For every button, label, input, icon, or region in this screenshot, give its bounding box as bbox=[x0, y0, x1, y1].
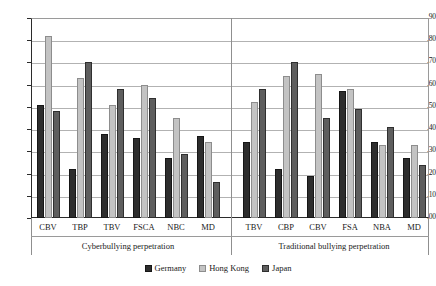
bar bbox=[85, 62, 92, 218]
bar bbox=[101, 134, 108, 218]
bar bbox=[197, 136, 204, 218]
bar bbox=[323, 118, 330, 218]
legend-item: Hong Kong bbox=[199, 263, 249, 273]
legend-swatch-icon bbox=[262, 265, 269, 272]
grouped-bar-chart: .90.80.70.60.50.40.30.20.10.00 CBVTBPTBV… bbox=[0, 0, 436, 286]
bar bbox=[419, 165, 426, 218]
bar bbox=[37, 105, 44, 218]
bar bbox=[213, 182, 220, 218]
bar-group bbox=[238, 19, 270, 218]
section-label: Cyberbullying perpetration bbox=[32, 240, 224, 252]
bar bbox=[149, 98, 156, 218]
bar bbox=[205, 142, 212, 218]
category-label: TBV bbox=[238, 221, 270, 233]
bar-group bbox=[270, 19, 302, 218]
bar-group bbox=[160, 19, 192, 218]
legend-swatch-icon bbox=[199, 265, 206, 272]
category-label: CBP bbox=[270, 221, 302, 233]
category-label: TBP bbox=[64, 221, 96, 233]
bar-group bbox=[302, 19, 334, 218]
category-label: CBV bbox=[32, 221, 64, 233]
bar bbox=[173, 118, 180, 218]
bar bbox=[355, 109, 362, 218]
legend-item: Germany bbox=[145, 263, 187, 273]
bar bbox=[283, 76, 290, 218]
bar bbox=[45, 36, 52, 218]
bar bbox=[403, 158, 410, 218]
bar bbox=[411, 145, 418, 218]
bar bbox=[165, 158, 172, 218]
bar bbox=[53, 111, 60, 218]
bar bbox=[77, 78, 84, 218]
bar-group bbox=[32, 19, 64, 218]
category-label: MD bbox=[192, 221, 224, 233]
category-label: TBV bbox=[96, 221, 128, 233]
bar bbox=[307, 176, 314, 218]
bar bbox=[347, 89, 354, 218]
bars-layer bbox=[32, 19, 428, 218]
bar-group bbox=[334, 19, 366, 218]
category-label-baseline bbox=[31, 236, 429, 237]
section-label: Traditional bullying perpetration bbox=[238, 240, 430, 252]
category-label: NBA bbox=[366, 221, 398, 233]
bar-group bbox=[192, 19, 224, 218]
bar bbox=[291, 62, 298, 218]
legend-label: Germany bbox=[155, 263, 187, 273]
bar-group bbox=[128, 19, 160, 218]
bar bbox=[109, 105, 116, 218]
legend-item: Japan bbox=[262, 263, 291, 273]
bar bbox=[243, 142, 250, 218]
category-label: FSCA bbox=[128, 221, 160, 233]
bar bbox=[387, 127, 394, 218]
category-label: CBV bbox=[302, 221, 334, 233]
bar bbox=[315, 74, 322, 218]
bar bbox=[259, 89, 266, 218]
category-label: NBC bbox=[160, 221, 192, 233]
bar-group bbox=[398, 19, 430, 218]
bar bbox=[371, 142, 378, 218]
legend-label: Hong Kong bbox=[209, 263, 249, 273]
bar bbox=[379, 145, 386, 218]
bar bbox=[117, 89, 124, 218]
legend-swatch-icon bbox=[145, 265, 152, 272]
bar bbox=[275, 169, 282, 218]
bar bbox=[69, 169, 76, 218]
bar bbox=[339, 91, 346, 218]
bar bbox=[251, 102, 258, 218]
bar bbox=[141, 85, 148, 218]
section-divider bbox=[231, 18, 232, 255]
bar-group bbox=[64, 19, 96, 218]
bar bbox=[181, 154, 188, 218]
bar-group bbox=[96, 19, 128, 218]
bar-group bbox=[366, 19, 398, 218]
category-label: FSA bbox=[334, 221, 366, 233]
bar bbox=[133, 138, 140, 218]
chart-legend: GermanyHong KongJapan bbox=[0, 263, 436, 273]
legend-label: Japan bbox=[272, 263, 291, 273]
category-label: MD bbox=[398, 221, 430, 233]
